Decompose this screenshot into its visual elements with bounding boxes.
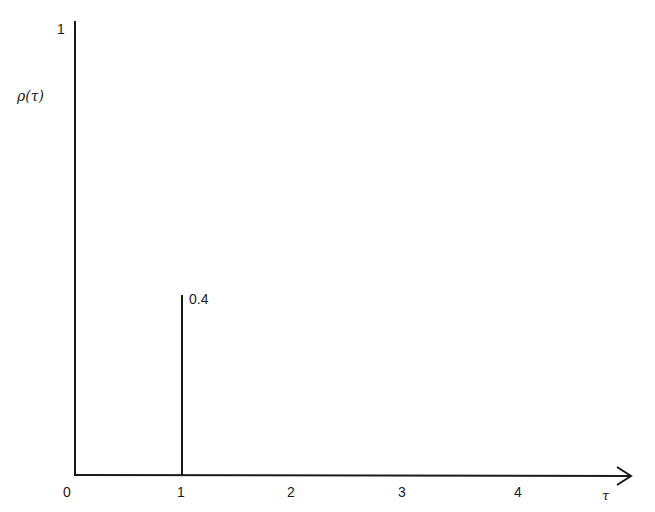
x-tick-4: 4: [514, 485, 522, 499]
x-tick-1: 1: [177, 485, 185, 499]
y-tick-1: 1: [57, 22, 65, 36]
x-axis-label: τ: [602, 489, 609, 503]
chart-canvas: [0, 0, 655, 512]
x-tick-0: 0: [63, 485, 71, 499]
x-tick-2: 2: [287, 485, 295, 499]
y-axis-label: ρ(τ): [17, 89, 44, 103]
x-axis: [74, 475, 630, 476]
x-tick-3: 3: [398, 485, 406, 499]
stem-value-label: 0.4: [189, 292, 208, 306]
